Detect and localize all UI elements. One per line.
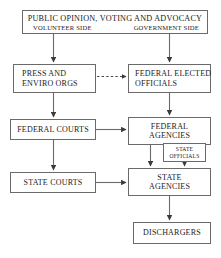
state-officials-label-line-2: OFFICIALS — [169, 153, 199, 160]
public-opinion-headline: PUBLIC OPINION, VOTING AND ADVOCACY — [28, 14, 202, 24]
node-state-agencies: STATE AGENCIES — [128, 168, 211, 196]
government-side-label: GOVERNMENT SIDE — [134, 24, 199, 31]
node-state-courts: STATE COURTS — [10, 172, 96, 193]
press-label-line-1: PRESS AND — [22, 69, 95, 78]
node-federal-courts: FEDERAL COURTS — [10, 119, 96, 140]
state-officials-label-line-1: STATE — [176, 146, 193, 153]
federal-elected-label-line-1: FEDERAL ELECTED — [135, 69, 210, 78]
diagram-canvas: PUBLIC OPINION, VOTING AND ADVOCACY VOLU… — [0, 0, 221, 258]
node-federal-agencies: FEDERAL AGENCIES — [128, 117, 211, 145]
federal-agencies-label-line-2: AGENCIES — [149, 131, 190, 140]
node-press-and-enviro-orgs: PRESS AND ENVIRO ORGS — [13, 64, 96, 93]
volunteer-side-label: VOLUNTEER SIDE — [33, 24, 92, 31]
state-courts-label: STATE COURTS — [24, 178, 83, 187]
federal-agencies-label-line-1: FEDERAL — [151, 122, 188, 131]
state-agencies-label-line-2: AGENCIES — [149, 182, 190, 191]
node-state-officials: STATE OFFICIALS — [163, 143, 206, 162]
node-federal-elected-officials: FEDERAL ELECTED OFFICIALS — [128, 64, 211, 93]
dischargers-label: DISCHARGERS — [143, 228, 201, 237]
node-dischargers: DISCHARGERS — [133, 222, 211, 244]
federal-courts-label: FEDERAL COURTS — [17, 125, 89, 134]
press-label-line-2: ENVIRO ORGS — [22, 79, 95, 88]
state-agencies-label-line-1: STATE — [157, 173, 181, 182]
public-opinion-sides: VOLUNTEER SIDE GOVERNMENT SIDE — [23, 24, 207, 31]
node-public-opinion: PUBLIC OPINION, VOTING AND ADVOCACY VOLU… — [22, 10, 208, 34]
federal-elected-label-line-2: OFFICIALS — [135, 79, 210, 88]
